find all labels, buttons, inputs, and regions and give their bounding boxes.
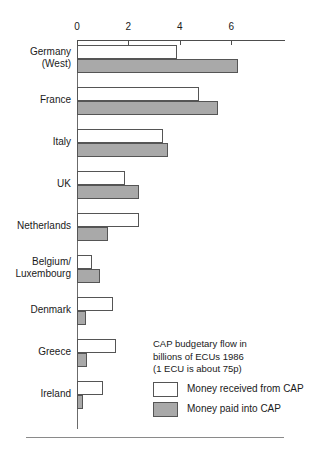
category-label: Germany (West) — [0, 46, 71, 69]
x-tick-label-4: 4 — [177, 21, 183, 32]
category-label: France — [0, 94, 71, 106]
x-tick-label-6: 6 — [228, 21, 234, 32]
category-label: Italy — [0, 136, 71, 148]
category-label: UK — [0, 178, 71, 190]
bar-money-paid — [77, 353, 87, 367]
legend-swatch-paid — [153, 402, 178, 417]
category-label: Denmark — [0, 304, 71, 316]
bar-money-paid — [77, 395, 83, 409]
bar-row: UK — [0, 170, 309, 212]
bar-money-received — [77, 297, 113, 311]
cap-budgetary-flow-bar-chart: 0246 Germany (West)FranceItalyUKNetherla… — [0, 0, 309, 452]
bar-money-received — [77, 339, 116, 353]
bar-money-paid — [77, 185, 139, 199]
bar-row: Belgium/ Luxembourg — [0, 254, 309, 296]
legend-items: Money received from CAPMoney paid into C… — [153, 382, 305, 417]
legend-swatch-received — [153, 382, 178, 397]
category-label: Belgium/ Luxembourg — [0, 256, 71, 279]
category-label: Netherlands — [0, 220, 71, 232]
bar-row: Germany (West) — [0, 44, 309, 86]
bar-money-received — [77, 381, 103, 395]
bar-money-received — [77, 45, 177, 59]
bar-money-paid — [77, 311, 86, 325]
bar-row: Netherlands — [0, 212, 309, 254]
bar-row: France — [0, 86, 309, 128]
legend-item: Money paid into CAP — [153, 402, 305, 417]
legend-item: Money received from CAP — [153, 382, 305, 397]
bar-money-received — [77, 255, 92, 269]
legend-label: Money paid into CAP — [187, 403, 281, 415]
bar-money-paid — [77, 269, 100, 283]
bar-money-paid — [77, 227, 108, 241]
x-tick-label-2: 2 — [126, 21, 132, 32]
bottom-divider — [26, 437, 284, 438]
bar-money-received — [77, 171, 125, 185]
bar-row: Denmark — [0, 296, 309, 338]
x-axis-line — [77, 40, 285, 41]
bar-money-paid — [77, 143, 168, 157]
category-label: Greece — [0, 346, 71, 358]
legend-caption: CAP budgetary flow in billions of ECUs 1… — [153, 338, 305, 376]
x-tick-label-0: 0 — [74, 21, 80, 32]
bar-money-paid — [77, 59, 238, 73]
bar-row: Italy — [0, 128, 309, 170]
bar-money-received — [77, 213, 139, 227]
bar-money-received — [77, 87, 199, 101]
bar-money-received — [77, 129, 163, 143]
legend-label: Money received from CAP — [187, 383, 304, 395]
chart-legend: CAP budgetary flow in billions of ECUs 1… — [153, 338, 305, 422]
category-label: Ireland — [0, 388, 71, 400]
bar-money-paid — [77, 101, 218, 115]
